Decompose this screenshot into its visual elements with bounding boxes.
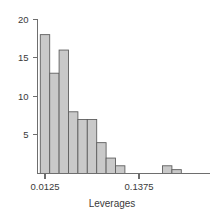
histogram-chart: 5101520 0.01250.1375 Leverages bbox=[0, 0, 224, 221]
histogram-bar bbox=[78, 119, 87, 173]
histogram-bar bbox=[87, 119, 96, 173]
chart-svg: 5101520 0.01250.1375 Leverages bbox=[0, 0, 224, 221]
histogram-bar bbox=[172, 170, 181, 174]
x-axis-ticks: 0.01250.1375 bbox=[30, 174, 153, 192]
bars-group bbox=[40, 35, 181, 174]
y-tick-label: 20 bbox=[18, 14, 29, 25]
histogram-bar bbox=[50, 73, 59, 173]
histogram-bar bbox=[59, 50, 68, 173]
y-tick-label: 5 bbox=[23, 129, 28, 140]
x-axis-title: Leverages bbox=[89, 198, 136, 209]
y-tick-label: 15 bbox=[18, 52, 29, 63]
y-tick-label: 10 bbox=[18, 91, 29, 102]
y-axis-ticks: 5101520 bbox=[18, 14, 38, 141]
histogram-bar bbox=[106, 158, 115, 173]
histogram-bar bbox=[116, 166, 125, 174]
histogram-bar bbox=[69, 112, 78, 174]
histogram-bar bbox=[163, 166, 172, 174]
x-tick-label: 0.0125 bbox=[30, 181, 59, 192]
histogram-bar bbox=[40, 35, 49, 174]
x-tick-label: 0.1375 bbox=[124, 181, 153, 192]
histogram-bar bbox=[97, 143, 106, 174]
